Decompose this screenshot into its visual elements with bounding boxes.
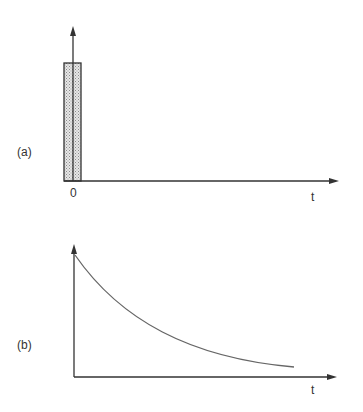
- arrow-right-icon: [327, 374, 337, 380]
- panel-a-label: (a): [17, 146, 32, 158]
- panel-b-label: (b): [17, 339, 32, 351]
- panel-a: [64, 26, 339, 184]
- diagram-canvas: [0, 0, 363, 412]
- origin-label: 0: [70, 187, 77, 199]
- arrow-right-icon: [329, 178, 339, 184]
- arrow-up-icon: [70, 26, 76, 36]
- panel-b: [71, 244, 337, 380]
- decay-curve: [75, 255, 294, 367]
- t-axis-label-a: t: [311, 191, 314, 203]
- arrow-up-icon: [71, 244, 77, 254]
- t-axis-label-b: t: [311, 384, 314, 396]
